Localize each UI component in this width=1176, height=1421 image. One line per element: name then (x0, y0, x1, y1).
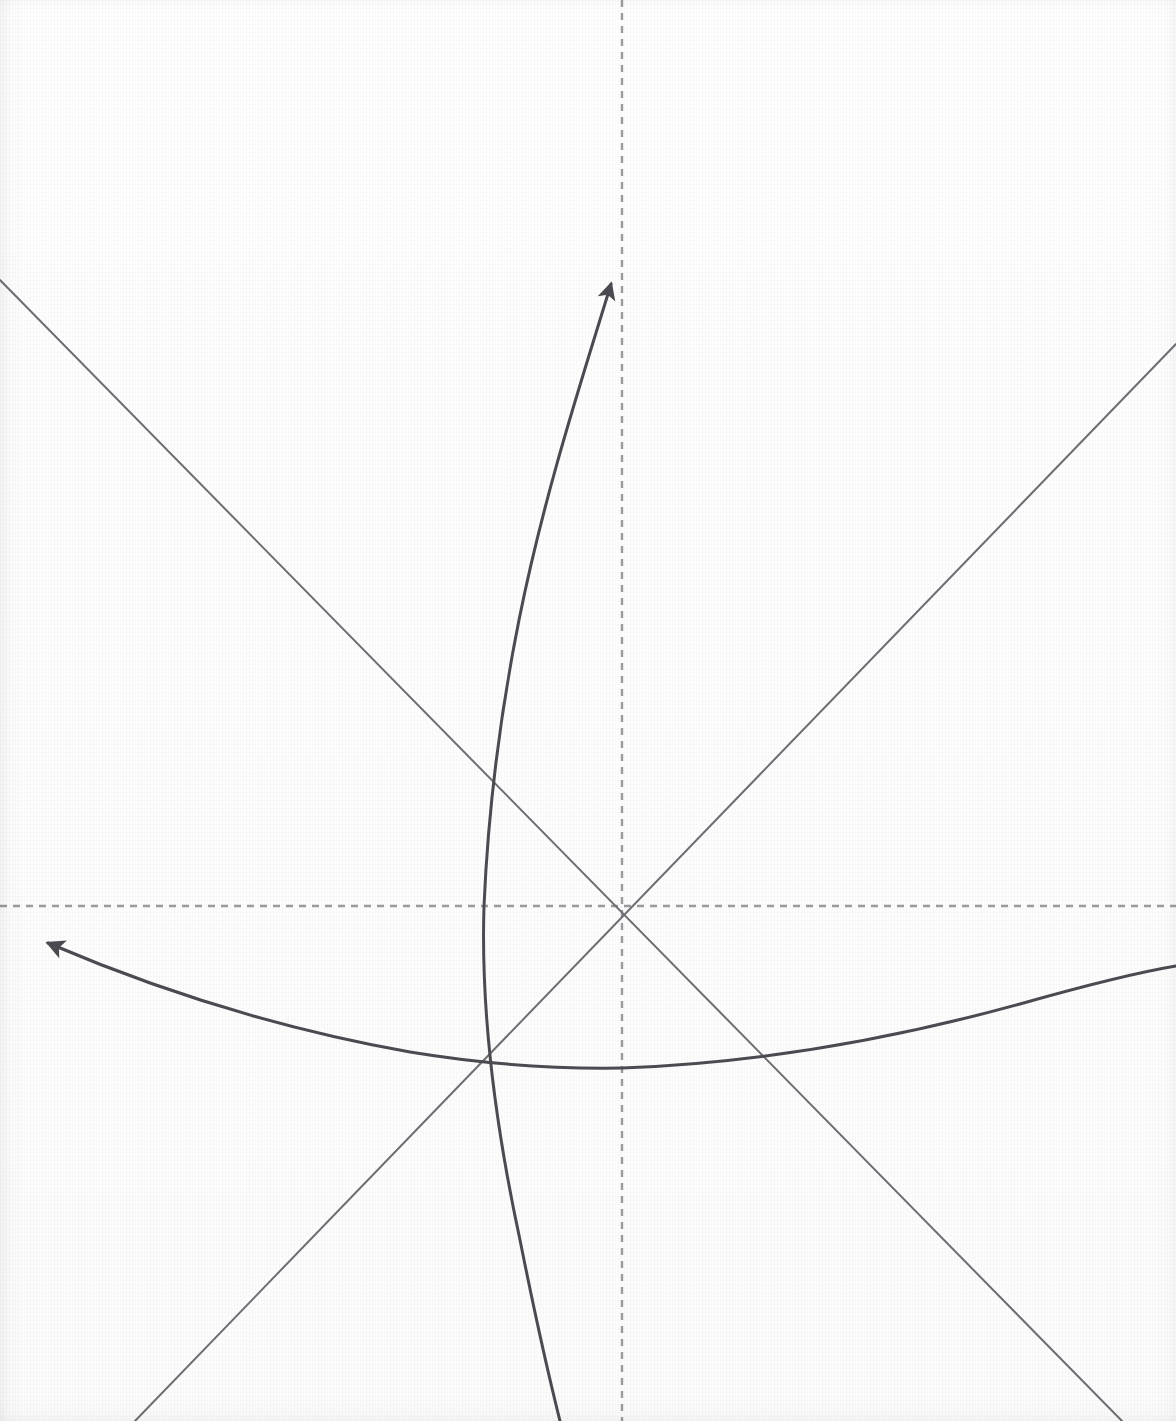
vertical-curve-arrow (484, 284, 611, 1421)
diagram-svg (0, 0, 1176, 1421)
ascending-straight-ray (135, 344, 1176, 1421)
figure-layer (0, 0, 1176, 1421)
horizontal-curve-arrow (48, 943, 1176, 1068)
diagram-canvas (0, 0, 1176, 1421)
